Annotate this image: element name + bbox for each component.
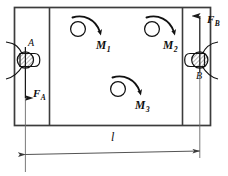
torque-1-subscript: 1 bbox=[107, 45, 111, 54]
torque-3-subscript: 3 bbox=[146, 105, 150, 114]
force-b-label: FB bbox=[207, 14, 220, 28]
torque-1-label: M1 bbox=[96, 40, 111, 54]
shaft-torque-diagram: A B FA FB M1 M2 M3 l bbox=[0, 0, 228, 176]
force-a-subscript: A bbox=[41, 93, 46, 102]
shaft-body bbox=[15, 8, 211, 126]
bearing-b-label: B bbox=[196, 71, 202, 81]
torque-3-label: M3 bbox=[135, 100, 150, 114]
torque-2-label: M2 bbox=[163, 40, 178, 54]
dimension-line-l bbox=[25, 151, 199, 155]
bearing-a-label: A bbox=[28, 38, 34, 48]
force-a-label: FA bbox=[33, 88, 46, 102]
torque-2-subscript: 2 bbox=[174, 45, 178, 54]
force-b-subscript: B bbox=[215, 19, 220, 28]
dimension-length-label: l bbox=[111, 131, 114, 143]
